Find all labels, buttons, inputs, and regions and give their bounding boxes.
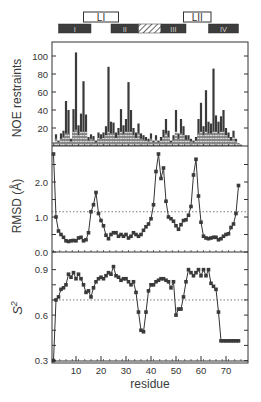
s2-point [87,289,91,293]
rmsd-point [179,223,183,227]
x-axis-label: residue [130,377,170,391]
y-tick-label: 1.0 [35,212,48,223]
rmsd-point [192,173,196,177]
noe-bar-light [215,132,217,146]
rmsd-ylabel: RMSD (Å) [9,179,24,234]
noe-bar-light [155,140,157,146]
noe-bar-light [112,133,114,146]
s2-point [199,274,203,278]
noe-bar-light [105,135,107,146]
noe-bar-light [87,141,89,146]
x-tick-label: 30 [121,365,132,376]
noe-bar-light [207,133,209,146]
y-tick-label: 100 [32,51,48,62]
noe-bar-light [222,132,224,146]
rmsd-point [154,170,158,174]
s2-point [167,280,171,284]
s2-point [202,268,206,272]
y-tick-label: 0.9 [35,264,48,275]
x-tick-label: 10 [71,365,82,376]
y-tick-label: 0.0 [35,247,48,258]
noe-bar-light [210,133,212,146]
element-label: III [170,25,176,34]
noe-bar-light [157,142,159,146]
rmsd-panel [52,152,248,252]
noe-bar-light [67,133,69,146]
noe-bar-light [75,130,77,146]
rmsd-point [227,232,231,236]
y-tick-label: 0.6 [35,310,48,321]
y-tick-label: 2.0 [35,177,48,188]
noe-bar-light [132,135,134,146]
noe-bar-light [217,133,219,146]
s2-point [134,291,138,295]
noe-bar-light [212,132,214,146]
noe-restraints-panel [52,52,248,146]
rmsd-point [94,191,98,195]
noe-bar-light [225,135,227,146]
noe-bar-light [182,135,184,146]
y-tick-label: 80 [37,69,48,80]
noe-bar-light [142,140,144,146]
s2-point [64,283,68,287]
s2-point [182,295,186,299]
s2-point [77,272,81,276]
noe-bar-light [195,141,197,146]
s2-point [217,310,221,314]
noe-bar-light [125,132,127,146]
noe-bar-light [85,132,87,146]
s2-point [82,283,86,287]
rmsd-point [87,231,91,235]
noe-bar-light [60,139,62,146]
s2-point [112,265,116,269]
noe-bar-light [230,141,232,146]
noe-bar-light [232,137,234,146]
rmsd-point [149,217,153,221]
rmsd-point [84,238,88,242]
rmsd-point [147,222,151,226]
s2-point [214,288,218,292]
s2-point [79,277,83,281]
noe-bar-light [180,133,182,146]
rmsd-point [194,157,198,161]
y-tick-label: 40 [37,105,48,116]
loop-label: LI [97,12,105,23]
s2-point [179,307,183,311]
noe-bar-light [122,134,124,146]
s2-point [132,280,136,284]
noe-bar-light [172,140,174,146]
noe-bar-light [175,132,177,146]
rmsd-point [157,152,161,156]
rmsd-point [172,219,176,223]
noe-bar-light [80,132,82,146]
s2-point [142,330,146,334]
s2-point [89,295,93,299]
rmsd-point [177,227,181,231]
rmsd-point [159,177,163,181]
rmsd-point [199,220,203,224]
x-tick-label: 40 [146,365,157,376]
noe-bar-light [107,132,109,146]
x-tick-label: 60 [196,365,207,376]
s2-point [147,289,151,293]
rmsd-point [114,231,118,235]
noe-bar-light [120,132,122,146]
noe-bar-light [117,135,119,146]
noe-bar-light [192,142,194,146]
noe-bar-light [162,137,164,146]
noe-bar-light [167,137,169,146]
noe-bar-light [100,139,102,146]
x-tick-label: 50 [171,365,182,376]
noe-bar-light [110,133,112,146]
order-parameter-panel [52,265,248,363]
rmsd-point [162,166,166,170]
rmsd-point [234,212,238,216]
rmsd-point [164,199,168,203]
noe-bar-light [95,142,97,146]
noe-bar-light [185,140,187,146]
s2-point [92,286,96,290]
rmsd-point [139,233,143,237]
rmsd-point [189,205,193,209]
y-tick-label: 0.3 [35,355,48,366]
noe-bar-light [220,132,222,146]
